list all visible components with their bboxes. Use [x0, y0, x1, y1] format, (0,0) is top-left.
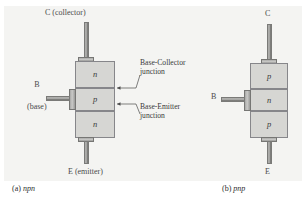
pnp-collector-lead [267, 24, 272, 62]
pnp-caption-prefix: (b) [222, 184, 233, 193]
pnp-layer-collector-label: p [267, 72, 271, 81]
pnp-emitter-lead [267, 141, 272, 164]
pnp-caption: (b) pnp [222, 184, 245, 193]
pnp-layer-base: n [250, 89, 288, 111]
pnp-layer-base-label: n [267, 96, 271, 105]
pnp-caption-type: pnp [233, 184, 245, 193]
pnp-base-tab [244, 90, 251, 111]
pnp-collector-label: C [265, 9, 270, 18]
pnp-base-label: B [211, 92, 216, 101]
pnp-base-lead [221, 97, 245, 102]
pnp-emitter-label: E [265, 167, 270, 176]
pnp-layer-collector: p [250, 63, 288, 89]
pnp-layer-emitter: p [250, 111, 288, 138]
bjt-structure-figure: n p n C (collector) B (base) E (emitter)… [0, 0, 306, 209]
pnp-layer-emitter-label: p [267, 120, 271, 129]
